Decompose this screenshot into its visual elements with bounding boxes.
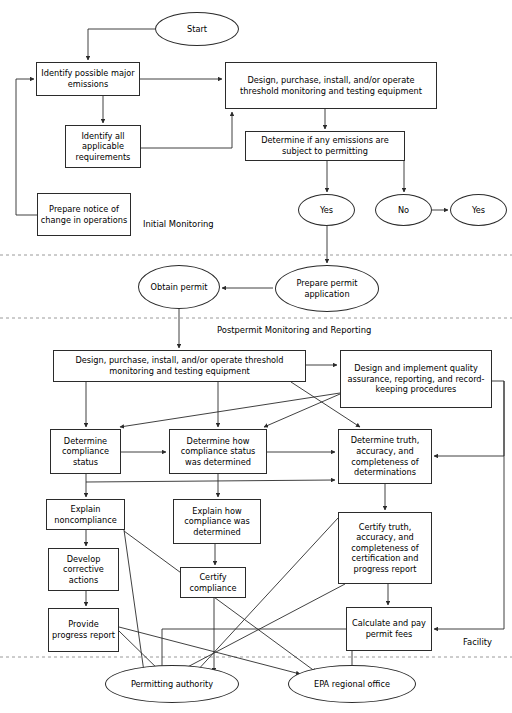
node-label-determine-truth-accuracy-completeness: Determine truth, accuracy, and completen… [339,435,431,477]
node-label-prepare-notice-of-change: Prepare notice of change in operations [38,204,130,225]
node-certify-compliance[interactable]: Certify compliance [180,567,246,598]
edge-requirements-to-design-top [141,112,232,148]
node-no-permitting[interactable]: No [375,194,432,226]
node-determine-compliance-status[interactable]: Determine compliance status [50,429,121,474]
edge-notice-to-identify [16,79,37,215]
edge-facility-to-calculate-fees [434,381,504,629]
node-label-yes-right: Yes [470,205,487,216]
node-label-explain-how-compliance-determined: Explain how compliance was determined [174,506,260,538]
node-identify-all-applicable-requirements[interactable]: Identify all applicable requirements [65,125,141,168]
node-label-start: Start [185,24,209,35]
node-label-design-purchase-install-operate-bottom: Design, purchase, install, and/or operat… [54,355,305,376]
edge-explain-noncompliance-to-permitting [124,530,144,672]
node-determine-truth-accuracy-completeness[interactable]: Determine truth, accuracy, and completen… [338,429,432,484]
node-yes-permitting[interactable]: Yes [298,194,355,226]
node-label-determine-compliance-status: Determine compliance status [51,436,120,468]
edge-compliance-status-to-truth-lower [86,480,335,482]
edge-quality-to-compliance-status [120,393,340,427]
node-label-develop-corrective-actions: Develop corrective actions [49,554,118,586]
node-identify-possible-major-emissions[interactable]: Identify possible major emissions [36,62,140,96]
node-obtain-permit[interactable]: Obtain permit [138,265,220,309]
node-design-purchase-install-operate-bottom[interactable]: Design, purchase, install, and/or operat… [53,350,306,382]
section-label-initial-monitoring: Initial Monitoring [141,219,216,229]
node-label-certify-compliance: Certify compliance [181,572,245,593]
node-develop-corrective-actions[interactable]: Develop corrective actions [48,548,119,591]
edge-explain-noncompliance-to-epa [124,531,316,672]
node-label-determine-how-compliance-status-determined: Determine how compliance status was dete… [170,436,266,468]
node-prepare-notice-of-change[interactable]: Prepare notice of change in operations [37,193,131,236]
node-label-yes-permitting: Yes [318,205,335,216]
node-provide-progress-report[interactable]: Provide progress report [48,608,119,652]
node-label-identify-all-applicable-requirements: Identify all applicable requirements [66,131,140,163]
node-calculate-pay-permit-fees[interactable]: Calculate and pay permit fees [346,607,432,651]
node-epa-regional-office[interactable]: EPA regional office [288,665,416,703]
node-permitting-authority[interactable]: Permitting authority [105,665,239,703]
node-explain-how-compliance-determined[interactable]: Explain how compliance was determined [173,499,261,544]
node-label-explain-noncompliance: Explain noncompliance [47,504,124,525]
node-label-certify-truth-accuracy-completeness: Certify truth, accuracy, and completenes… [339,522,431,575]
node-prepare-permit-application[interactable]: Prepare permit application [275,265,379,312]
node-label-identify-possible-major-emissions: Identify possible major emissions [37,68,139,89]
node-label-calculate-pay-permit-fees: Calculate and pay permit fees [347,618,431,639]
flowchart-canvas: StartIdentify possible major emissionsDe… [0,0,512,713]
node-determine-if-emissions-subject-permitting[interactable]: Determine if any emissions are subject t… [245,131,405,161]
node-label-obtain-permit: Obtain permit [149,282,210,293]
node-label-permitting-authority: Permitting authority [129,679,215,690]
node-certify-truth-accuracy-completeness[interactable]: Certify truth, accuracy, and completenes… [338,512,432,584]
node-label-epa-regional-office: EPA regional office [312,679,392,690]
node-yes-right[interactable]: Yes [450,194,507,226]
edge-start-to-identify [88,29,155,60]
node-determine-how-compliance-status-determined[interactable]: Determine how compliance status was dete… [169,429,267,474]
node-design-purchase-install-operate-top[interactable]: Design, purchase, install, and/or operat… [225,62,437,109]
node-start[interactable]: Start [155,12,239,46]
node-label-provide-progress-report: Provide progress report [49,619,118,640]
node-label-prepare-permit-application: Prepare permit application [276,278,378,299]
node-design-implement-quality-assurance[interactable]: Design and implement quality assurance, … [340,350,492,408]
section-label-postpermit: Postpermit Monitoring and Reporting [215,325,373,335]
node-label-no-permitting: No [396,205,411,216]
node-label-design-implement-quality-assurance: Design and implement quality assurance, … [341,363,491,395]
node-label-determine-if-emissions-subject-permitting: Determine if any emissions are subject t… [246,135,404,156]
section-label-facility: Facility [461,637,494,647]
node-explain-noncompliance[interactable]: Explain noncompliance [46,499,125,530]
node-label-design-purchase-install-operate-top: Design, purchase, install, and/or operat… [226,75,436,96]
